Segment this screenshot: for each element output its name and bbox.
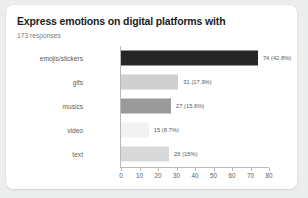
x-axis-tick-label: 40 [191,172,198,179]
x-axis-tick-label: 20 [154,172,161,179]
x-axis-tick [121,168,122,171]
bar-category-label: video [67,127,83,134]
chart-card: Express emotions on digital platforms wi… [6,5,297,189]
bar-chart-plot: emojis/stickers 74 (42.8%) gifs 31 (17.9… [6,43,297,189]
bar-row[interactable]: musics 27 (15.6%) [6,94,297,118]
bar-category-label: emojis/stickers [40,55,83,62]
x-axis-tick [158,168,159,171]
bar-rect[interactable] [121,51,258,66]
x-axis-tick-label: 70 [247,172,254,179]
x-axis-tick-label: 10 [136,172,143,179]
page-title: Express emotions on digital platforms wi… [17,15,225,27]
bar-value-label: 26 (15%) [174,151,198,157]
bar-rect[interactable] [121,147,169,162]
x-axis-tick [140,168,141,171]
x-axis-tick-label: 50 [210,172,217,179]
bar-value-label: 74 (42.8%) [263,55,291,61]
bar-rect[interactable] [121,99,171,114]
x-axis-tick [214,168,215,171]
bar-rect[interactable] [121,75,178,90]
bar-value-label: 31 (17.9%) [183,79,211,85]
x-axis-tick-label: 60 [228,172,235,179]
bar-value-label: 27 (15.6%) [176,103,204,109]
x-axis-tick-label: 80 [265,172,272,179]
x-axis-tick-label: 0 [119,172,123,179]
bar-category-label: gifs [73,79,83,86]
x-axis-tick [269,168,270,171]
x-axis-tick-label: 30 [173,172,180,179]
bar-row[interactable]: gifs 31 (17.9%) [6,70,297,94]
x-axis-tick [232,168,233,171]
x-axis-tick [251,168,252,171]
x-axis-tick [177,168,178,171]
bar-category-label: text [72,151,83,158]
bar-value-label: 15 (8.7%) [154,127,179,133]
bar-row[interactable]: emojis/stickers 74 (42.8%) [6,46,297,70]
bar-category-label: musics [62,103,83,110]
x-axis-tick [195,168,196,171]
bar-row[interactable]: video 15 (8.7%) [6,118,297,142]
bar-rect[interactable] [121,123,149,138]
response-count: 173 responses [17,32,61,39]
bar-row[interactable]: text 26 (15%) [6,142,297,166]
